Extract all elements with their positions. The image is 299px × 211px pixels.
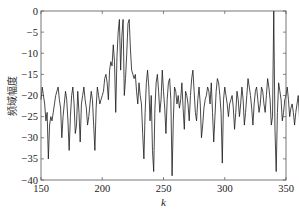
y-axis-label: 频域幅度	[6, 76, 18, 116]
y-tick-label: −25	[22, 111, 38, 122]
x-axis-ticks: 150200250300350	[33, 11, 294, 194]
x-tick-label: 150	[33, 183, 49, 194]
y-tick-label: −35	[22, 153, 38, 164]
x-tick-label: 200	[94, 183, 110, 194]
svg-text:频域幅度: 频域幅度	[6, 76, 18, 116]
x-tick-label: 250	[156, 183, 172, 194]
x-tick-label: 300	[217, 183, 233, 194]
spectrum-series	[41, 11, 299, 176]
y-tick-label: −30	[22, 132, 38, 143]
y-tick-label: −20	[22, 90, 38, 101]
x-tick-label: 350	[278, 183, 294, 194]
y-tick-label: 0	[33, 6, 38, 17]
x-axis-label: k	[161, 196, 167, 208]
y-tick-label: −5	[27, 27, 38, 38]
line-chart: 频域幅度 0−5−10−15−20−25−30−35−40 1502002503…	[0, 0, 299, 211]
y-tick-label: −10	[22, 48, 38, 59]
y-tick-label: −15	[22, 69, 38, 80]
spectrum-line	[41, 11, 299, 176]
